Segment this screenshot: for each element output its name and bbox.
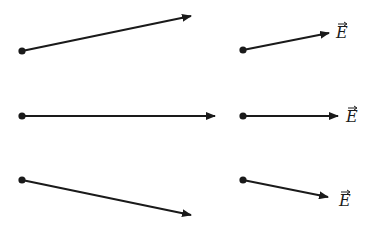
e-field-label: E (345, 107, 358, 126)
vector-left-row-1 (18, 16, 191, 55)
vector-left-row-2 (18, 112, 215, 119)
diagram-canvas: EEE (0, 0, 368, 226)
origin-dot (239, 176, 246, 183)
vector-arrow (22, 16, 191, 51)
origin-dot (18, 47, 25, 54)
origin-dot (239, 112, 246, 119)
vector-arrow (243, 180, 328, 197)
origin-dot (239, 46, 246, 53)
vector-arrow (243, 33, 329, 50)
vector-e-field-row-2: E (239, 106, 358, 126)
vector-diagram: EEE (0, 0, 368, 226)
e-field-label: E (335, 23, 348, 42)
vector-arrow (22, 180, 191, 215)
e-field-label: E (338, 191, 351, 210)
vector-e-field-row-3: E (239, 176, 351, 210)
vector-e-field-row-1: E (239, 22, 348, 54)
vector-left-row-3 (18, 176, 191, 215)
origin-dot (18, 112, 25, 119)
origin-dot (18, 176, 25, 183)
